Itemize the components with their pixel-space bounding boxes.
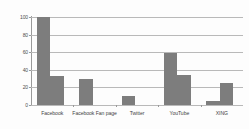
bar	[79, 79, 93, 105]
gridline	[31, 17, 243, 18]
gridline	[31, 52, 243, 53]
bar	[37, 17, 51, 105]
y-axis-tick-labels: 020406080100	[0, 17, 28, 105]
y-axis-tick-label: 100	[20, 15, 28, 20]
bar	[220, 83, 234, 105]
y-axis-tick-label: 0	[25, 103, 28, 108]
x-axis-tick-mark	[116, 105, 117, 107]
x-axis-category-label: Twitter	[130, 110, 145, 116]
y-axis-tick-mark	[29, 17, 31, 18]
bar	[122, 96, 136, 105]
bar	[177, 75, 191, 105]
y-axis-tick-mark	[29, 105, 31, 106]
y-axis-tick-label: 60	[23, 50, 28, 55]
x-axis-tick-mark	[201, 105, 202, 107]
bar	[206, 101, 220, 105]
bar-chart: 020406080100 FacebookFacebook Fan pageTw…	[0, 0, 249, 129]
x-axis-category-label: XING	[216, 110, 228, 116]
x-axis-tick-mark	[158, 105, 159, 107]
x-axis-category-label: YouTube	[170, 110, 190, 116]
y-axis-tick-mark	[29, 70, 31, 71]
x-axis-tick-mark	[73, 105, 74, 107]
gridline	[31, 105, 243, 106]
y-axis-tick-mark	[29, 35, 31, 36]
x-axis-category-label: Facebook Fan page	[72, 110, 116, 116]
y-axis-tick-mark	[29, 87, 31, 88]
bar	[50, 76, 64, 105]
bar	[164, 53, 178, 105]
y-axis-tick-mark	[29, 52, 31, 53]
y-axis-tick-label: 80	[23, 32, 28, 37]
x-axis-category-label: Facebook	[41, 110, 63, 116]
y-axis-tick-label: 20	[23, 85, 28, 90]
y-axis-tick-label: 40	[23, 67, 28, 72]
gridline	[31, 35, 243, 36]
gridline	[31, 70, 243, 71]
plot-area	[31, 17, 243, 105]
